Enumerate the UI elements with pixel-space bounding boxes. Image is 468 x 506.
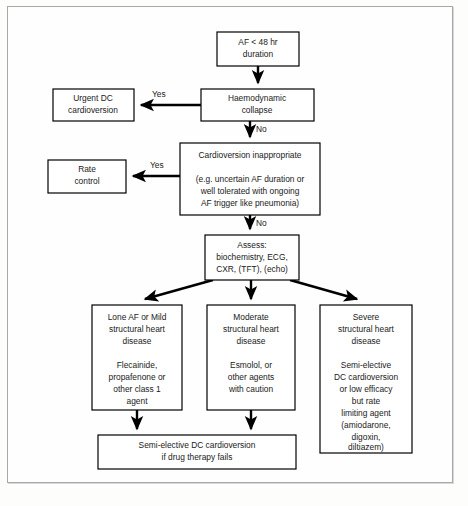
severe-line-5: DC cardioversion [334, 372, 399, 382]
severe-line-6: or low efficacy [340, 384, 394, 394]
semi-elective-line-0: Semi-elective DC cardioversion [139, 440, 256, 450]
assess-line-0: Assess: [237, 240, 266, 250]
cardioversion-inappropriate-line-2: (e.g. uncertain AF duration or [196, 174, 305, 184]
lone-af-line-1: structural heart [109, 324, 166, 334]
moderate-line-2: disease [237, 336, 266, 346]
edge-assess-to-severe [290, 280, 357, 299]
assess-line-1: biochemistry, ECG, [216, 252, 288, 262]
assess-line-2: CXR, (TFT), (echo) [216, 264, 288, 274]
lone-af-line-7: agent [127, 396, 149, 406]
severe-structural-node[interactable]: Severe structural heart disease Semi-ele… [320, 305, 412, 453]
cardioversion-inappropriate-line-0: Cardioversion inappropriate [199, 150, 302, 160]
moderate-line-1: structural heart [223, 324, 280, 334]
moderate-line-5: other agents [228, 372, 275, 382]
moderate-line-6: with caution [228, 384, 274, 394]
cardioversion-inappropriate-line-3: well tolerated with ongoing [200, 186, 300, 196]
af-duration-node[interactable]: AF < 48 hr duration [217, 32, 299, 66]
lone-af-line-5: propafenone or [109, 372, 166, 382]
urgent-dc-line-0: Urgent DC [73, 93, 113, 103]
edge-label-no-inappropriate: No [256, 218, 267, 228]
edge-label-yes-collapse: Yes [152, 89, 166, 99]
moderate-line-0: Moderate [233, 312, 269, 322]
moderate-line-4: Esmolol, or [230, 360, 272, 370]
lone-af-line-6: other class 1 [113, 384, 161, 394]
flowchart-page: Yes No Yes No [0, 0, 468, 506]
rate-control-line-1: control [74, 176, 99, 186]
urgent-dc-cardioversion-node[interactable]: Urgent DC cardioversion [53, 89, 134, 121]
rate-control-line-0: Rate [78, 164, 96, 174]
flowchart-canvas: Yes No Yes No [0, 0, 468, 506]
severe-line-0: Severe [353, 312, 380, 322]
lone-af-line-0: Lone AF or Mild [108, 312, 167, 322]
edge-haemodynamic-to-urgent-dc: Yes [141, 89, 201, 105]
haemodynamic-collapse-node[interactable]: Haemodynamic collapse [201, 89, 314, 121]
urgent-dc-line-1: cardioversion [68, 105, 118, 115]
severe-line-1: structural heart [338, 324, 395, 334]
cardioversion-inappropriate-node[interactable]: Cardioversion inappropriate (e.g. uncert… [180, 143, 320, 215]
severe-line-10: digoxin, [352, 432, 381, 442]
edge-haemodynamic-to-cardioversion: No [250, 121, 267, 137]
rate-control-node[interactable]: Rate control [48, 160, 126, 193]
severe-line-11: diltiazem) [348, 442, 384, 452]
assess-node[interactable]: Assess: biochemistry, ECG, CXR, (TFT), (… [205, 235, 299, 280]
severe-line-7: but rate [352, 396, 381, 406]
edge-cardioversion-to-rate-control: Yes [133, 160, 180, 176]
edge-label-no-collapse: No [256, 124, 267, 134]
edge-cardioversion-to-assess: No [250, 215, 267, 229]
severe-line-2: disease [352, 336, 381, 346]
af-duration-line-0: AF < 48 hr [238, 37, 278, 47]
af-duration-line-1: duration [243, 49, 274, 59]
moderate-structural-node[interactable]: Moderate structural heart disease Esmolo… [207, 305, 295, 410]
cardioversion-inappropriate-line-4: AF trigger like pneumonia) [201, 198, 299, 208]
severe-line-4: Semi-elective [341, 360, 392, 370]
semi-elective-dc-cardioversion-node[interactable]: Semi-elective DC cardioversion if drug t… [98, 435, 296, 469]
lone-af-mild-node[interactable]: Lone AF or Mild structural heart disease… [92, 305, 182, 410]
haemodynamic-line-1: collapse [242, 105, 273, 115]
severe-line-9: (amiodarone, [341, 420, 390, 430]
edge-assess-to-lone-af [145, 280, 213, 299]
lone-af-line-2: disease [123, 336, 152, 346]
lone-af-line-4: Flecainide, [117, 360, 158, 370]
edge-label-yes-inappropriate: Yes [150, 160, 164, 170]
semi-elective-line-1: if drug therapy fails [162, 452, 233, 462]
severe-line-8: limiting agent [341, 408, 391, 418]
haemodynamic-line-0: Haemodynamic [228, 93, 286, 103]
